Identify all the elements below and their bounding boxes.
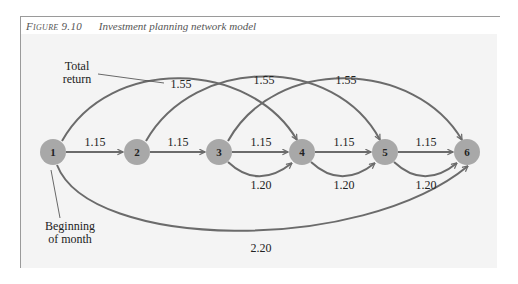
- weight-5-6-lower: 1.20: [416, 178, 437, 192]
- weight-1-6-bottom: 2.20: [251, 241, 272, 255]
- weight-2-3: 1.15: [168, 135, 189, 149]
- edge-4-5-lower: [311, 162, 375, 176]
- beginning-of-month-label-line2: of month: [48, 232, 92, 246]
- beginning-of-month-leader: [51, 170, 60, 218]
- node-5: 5: [372, 139, 398, 165]
- weight-1-4-upper: 1.55: [171, 77, 192, 91]
- svg-text:2: 2: [134, 146, 140, 158]
- weight-3-4-lower: 1.20: [251, 178, 272, 192]
- weight-4-5-lower: 1.20: [334, 178, 355, 192]
- svg-text:6: 6: [464, 146, 470, 158]
- svg-text:5: 5: [382, 146, 388, 158]
- weight-2-5-upper: 1.55: [254, 73, 275, 87]
- network-diagram: 1 2 3 4 5 6 1.15 1.15 1.15 1.15 1.15 1.2…: [0, 0, 518, 284]
- weight-1-2: 1.15: [85, 135, 106, 149]
- edge-1-6-bottom: [57, 165, 468, 231]
- node-1: 1: [40, 139, 66, 165]
- node-6: 6: [454, 139, 480, 165]
- beginning-of-month-label-line1: Beginning: [45, 219, 95, 233]
- weight-3-4: 1.15: [251, 135, 272, 149]
- svg-text:4: 4: [299, 146, 305, 158]
- edge-3-6-upper: [228, 78, 462, 141]
- weight-5-6: 1.15: [416, 135, 437, 149]
- node-2: 2: [124, 139, 150, 165]
- total-return-label-line2: return: [63, 72, 92, 86]
- total-return-leader: [98, 74, 164, 83]
- weight-3-6-upper: 1.55: [336, 73, 357, 87]
- svg-text:1: 1: [50, 146, 56, 158]
- node-4: 4: [289, 139, 315, 165]
- weight-4-5: 1.15: [334, 135, 355, 149]
- edge-3-4-lower: [228, 162, 292, 176]
- node-3: 3: [206, 139, 232, 165]
- edge-5-6-lower: [394, 162, 457, 176]
- svg-text:3: 3: [216, 146, 222, 158]
- total-return-label-line1: Total: [65, 59, 90, 73]
